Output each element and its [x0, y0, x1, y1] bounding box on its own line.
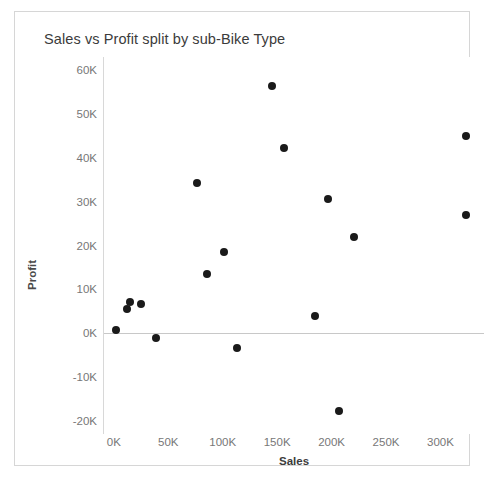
- data-point[interactable]: [462, 132, 470, 140]
- data-point[interactable]: [280, 144, 288, 152]
- y-tick-label: 50K: [37, 108, 97, 120]
- data-point[interactable]: [137, 300, 145, 308]
- y-tick-label: 20K: [37, 240, 97, 252]
- data-point[interactable]: [350, 233, 358, 241]
- data-point[interactable]: [220, 248, 228, 256]
- data-point[interactable]: [126, 298, 134, 306]
- data-point[interactable]: [462, 211, 470, 219]
- x-axis-tick-labels: 0K50K100K150K200K250K300K: [103, 436, 484, 452]
- x-tick-label: 200K: [318, 436, 345, 448]
- y-tick-label: -20K: [37, 415, 97, 427]
- x-tick-label: 50K: [158, 436, 178, 448]
- zero-reference-line: [104, 333, 484, 334]
- x-tick-label: 300K: [427, 436, 454, 448]
- y-tick-label: 60K: [37, 64, 97, 76]
- x-tick-label: 100K: [209, 436, 236, 448]
- chart-title: Sales vs Profit split by sub-Bike Type: [44, 31, 285, 47]
- y-tick-label: 10K: [37, 283, 97, 295]
- scatter-plot-screenshot: Sales vs Profit split by sub-Bike Type P…: [0, 0, 484, 478]
- plot-area: [103, 57, 484, 434]
- x-tick-label: 250K: [373, 436, 400, 448]
- y-axis-tick-labels: Profit -20K-10K0K10K20K30K40K50K60K: [33, 57, 97, 434]
- y-tick-label: 40K: [37, 152, 97, 164]
- x-axis-title: Sales: [103, 455, 484, 467]
- y-tick-label: -10K: [37, 371, 97, 383]
- visualization-card: Sales vs Profit split by sub-Bike Type P…: [14, 11, 470, 466]
- x-tick-label: 150K: [264, 436, 291, 448]
- data-point[interactable]: [335, 407, 343, 415]
- data-point[interactable]: [193, 179, 201, 187]
- y-tick-label: 0K: [37, 327, 97, 339]
- data-point[interactable]: [203, 270, 211, 278]
- data-point[interactable]: [152, 334, 160, 342]
- data-point[interactable]: [311, 312, 319, 320]
- y-tick-label: 30K: [37, 196, 97, 208]
- data-point[interactable]: [233, 344, 241, 352]
- data-point[interactable]: [324, 195, 332, 203]
- x-tick-label: 0K: [107, 436, 121, 448]
- data-point[interactable]: [268, 82, 276, 90]
